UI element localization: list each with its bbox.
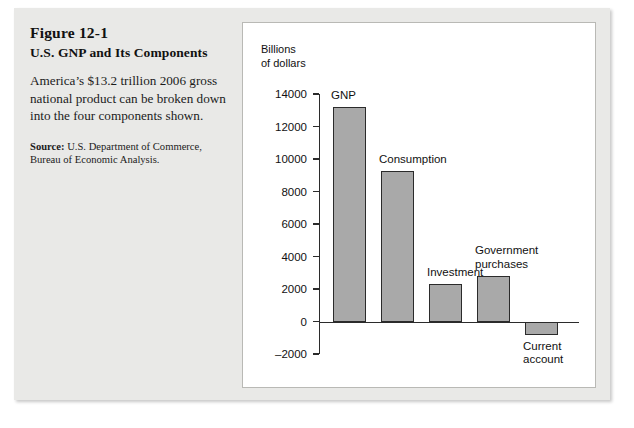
y-axis-tick bbox=[313, 126, 319, 127]
y-axis-tick-label: 8000 bbox=[255, 186, 307, 198]
y-axis-tick bbox=[313, 353, 319, 354]
y-axis-tick-label: 6000 bbox=[255, 218, 307, 230]
y-axis-line bbox=[319, 94, 320, 354]
figure-description: America’s $13.2 trillion 2006 gross nati… bbox=[30, 72, 226, 125]
bar bbox=[381, 171, 414, 321]
chart-panel: Billions of dollars 14000120001000080006… bbox=[242, 22, 596, 388]
figure-source: Source: U.S. Department of Commerce, Bur… bbox=[30, 140, 226, 167]
bar-label: Government purchases bbox=[475, 244, 538, 271]
y-axis-tick bbox=[313, 158, 319, 159]
y-axis-tick-label: 10000 bbox=[255, 153, 307, 165]
y-axis-tick bbox=[313, 93, 319, 94]
y-axis-tick-label: –2000 bbox=[255, 348, 307, 360]
bar bbox=[525, 322, 558, 335]
figure-number: Figure 12-1 bbox=[30, 24, 226, 42]
bar-label: Consumption bbox=[379, 153, 447, 167]
bar bbox=[333, 107, 366, 322]
y-axis-tick-label: 14000 bbox=[255, 88, 307, 100]
y-axis-tick bbox=[313, 256, 319, 257]
y-axis-tick-label: 12000 bbox=[255, 121, 307, 133]
y-axis-tick bbox=[313, 191, 319, 192]
bar bbox=[429, 284, 462, 321]
bar bbox=[477, 276, 510, 322]
figure-card: Figure 12-1 U.S. GNP and Its Components … bbox=[14, 8, 610, 400]
y-axis-tick-label: 4000 bbox=[255, 251, 307, 263]
y-axis-tick bbox=[313, 288, 319, 289]
source-label: Source: bbox=[30, 141, 65, 152]
y-axis-tick bbox=[313, 321, 319, 322]
y-axis-tick-label: 2000 bbox=[255, 283, 307, 295]
caption-panel: Figure 12-1 U.S. GNP and Its Components … bbox=[30, 24, 226, 384]
y-axis-tick bbox=[313, 223, 319, 224]
bar-label: Current account bbox=[523, 340, 563, 367]
bar-label: GNP bbox=[331, 89, 356, 103]
y-axis-title: Billions of dollars bbox=[261, 43, 306, 70]
y-axis-tick-label: 0 bbox=[255, 316, 307, 328]
figure-title: U.S. GNP and Its Components bbox=[30, 45, 226, 61]
bar-chart-plot: Billions of dollars 14000120001000080006… bbox=[243, 23, 595, 387]
